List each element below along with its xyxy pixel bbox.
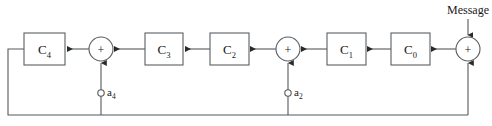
block-c0[interactable]: C0 bbox=[391, 33, 430, 65]
block-c4[interactable]: C4 bbox=[24, 33, 65, 65]
message-input-label: Message bbox=[447, 3, 489, 17]
adder-message-operator: + bbox=[465, 43, 472, 57]
tap-a4-label: a4 bbox=[107, 86, 116, 101]
adder-message[interactable]: + bbox=[456, 37, 480, 61]
adder-a4[interactable]: + bbox=[89, 37, 113, 61]
adder-a2[interactable]: + bbox=[276, 37, 300, 61]
tap-a2-label: a2 bbox=[294, 86, 303, 101]
adder-a2-operator: + bbox=[285, 43, 292, 57]
block-diagram-canvas: C4 C3 C2 C1 C0 + + + bbox=[0, 0, 492, 126]
tap-a2-node bbox=[285, 90, 291, 96]
tap-a4-node bbox=[98, 90, 104, 96]
block-c1[interactable]: C1 bbox=[327, 33, 366, 65]
block-c3[interactable]: C3 bbox=[145, 33, 183, 65]
block-diagram: C4 C3 C2 C1 C0 + + + bbox=[0, 0, 492, 126]
block-c2[interactable]: C2 bbox=[210, 33, 249, 65]
adder-a4-operator: + bbox=[98, 43, 105, 57]
